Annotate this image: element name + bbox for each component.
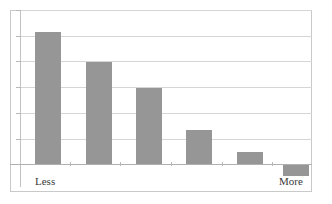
x-axis-label-less: Less	[35, 175, 55, 188]
gridline	[20, 10, 312, 11]
x-axis-tick	[272, 162, 273, 166]
x-axis-label-more: More	[279, 175, 303, 188]
x-axis-line	[10, 164, 312, 165]
y-axis-tick	[16, 61, 21, 62]
y-axis-tick	[16, 113, 21, 114]
gridline	[20, 36, 312, 37]
gridline	[20, 87, 312, 88]
y-axis-tick	[16, 87, 21, 88]
gridline	[20, 139, 312, 140]
x-axis-tick	[171, 162, 172, 166]
gridline	[20, 61, 312, 62]
bar-4	[186, 130, 212, 164]
bar-2	[86, 62, 112, 164]
y-axis-tick	[16, 10, 21, 11]
gridline	[20, 113, 312, 114]
x-axis-tick	[120, 162, 121, 166]
bar-1	[35, 32, 61, 164]
bar-3	[136, 88, 162, 164]
histogram-figure: Less More	[0, 0, 332, 204]
bar-5	[237, 152, 263, 164]
x-axis-tick	[70, 162, 71, 166]
plot-area	[20, 10, 312, 164]
y-axis-tick	[16, 36, 21, 37]
y-axis-tick	[16, 139, 21, 140]
x-axis-tick	[222, 162, 223, 166]
